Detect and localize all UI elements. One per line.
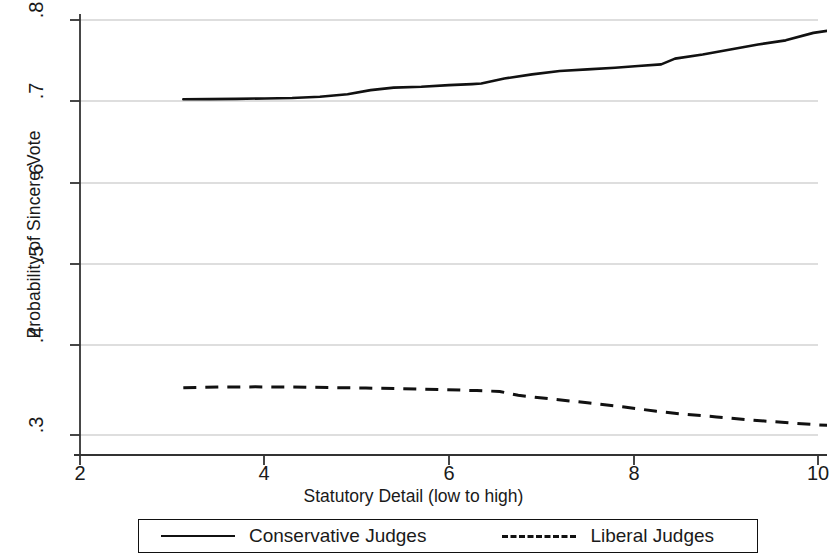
series-line-liberal-judges	[183, 387, 827, 426]
x-tick-label-0: 2	[55, 462, 105, 485]
legend-entry-liberal-judges: Liberal Judges	[502, 520, 714, 552]
x-tick-label-1: 4	[239, 462, 289, 485]
x-axis-title: Statutory Detail (low to high)	[0, 486, 827, 507]
y-tick-marks	[70, 20, 80, 435]
legend-solid-line-icon	[161, 529, 235, 543]
legend-dashed-line-icon	[502, 529, 576, 543]
y-tick-label-0: .8	[25, 2, 48, 42]
y-tick-label-1: .7	[25, 83, 48, 123]
y-tick-label-3: .5	[25, 246, 48, 286]
y-tick-label-5: .3	[25, 417, 48, 457]
x-tick-label-3: 8	[609, 462, 659, 485]
legend-entry-conservative-judges: Conservative Judges	[161, 520, 426, 552]
gridlines	[80, 20, 818, 435]
series-line-conservative-judges	[183, 30, 827, 100]
x-tick-label-2: 6	[424, 462, 474, 485]
legend-label-conservative-judges: Conservative Judges	[249, 525, 426, 547]
x-tick-label-4: 10	[793, 462, 833, 485]
y-tick-label-2: .6	[25, 164, 48, 204]
y-tick-label-4: .4	[25, 327, 48, 367]
legend-label-liberal-judges: Liberal Judges	[590, 525, 714, 547]
chart-legend: Conservative Judges Liberal Judges	[138, 519, 758, 553]
